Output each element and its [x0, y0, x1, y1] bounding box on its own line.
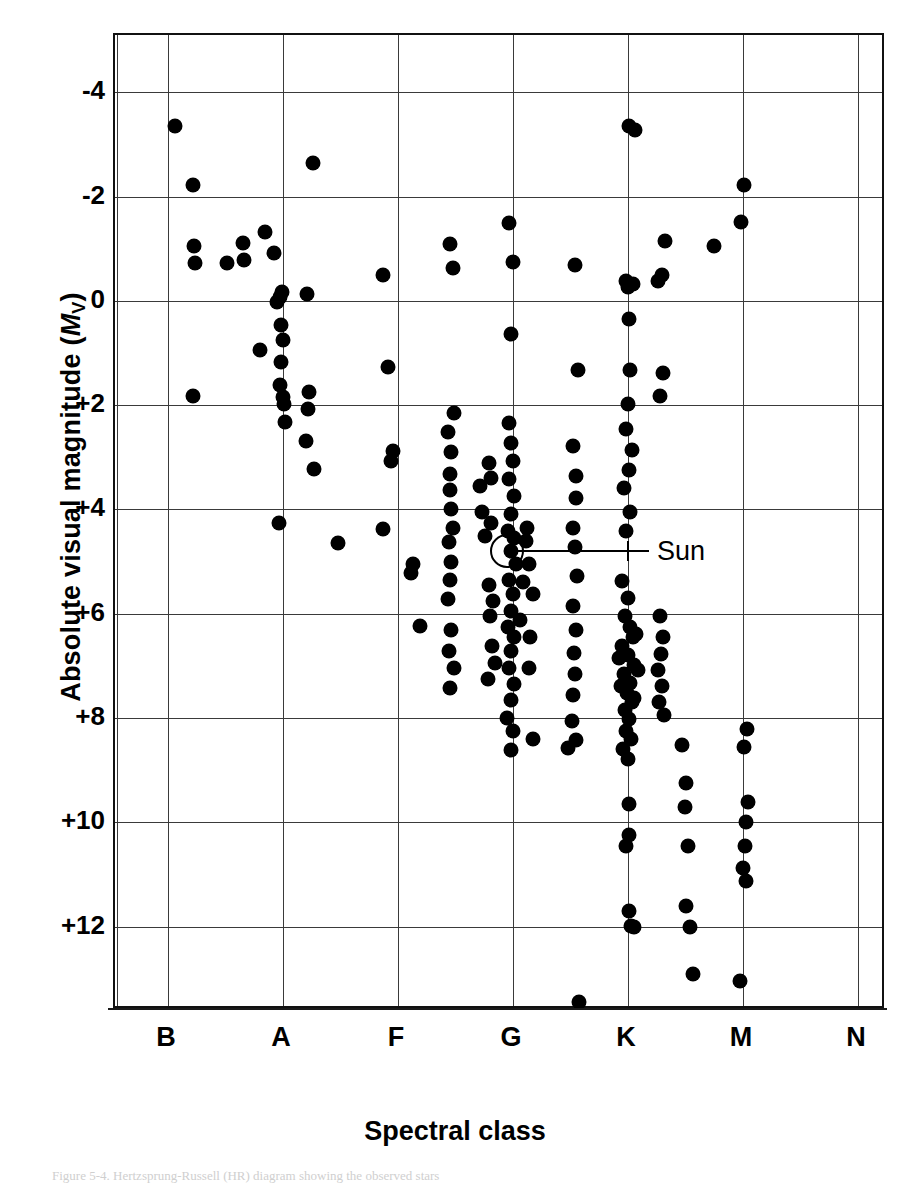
data-point [621, 751, 636, 766]
y-axis-tick-label: +6 [35, 596, 105, 627]
data-point [740, 722, 755, 737]
x-axis-tick-label-k: K [616, 1022, 636, 1053]
data-point [681, 838, 696, 853]
hr-diagram-figure: Absolute visual magnitude (MV) -4-20+2+4… [0, 0, 910, 1186]
data-point [566, 438, 581, 453]
data-point [569, 623, 584, 638]
data-point [504, 644, 519, 659]
data-point [653, 609, 668, 624]
data-point [569, 468, 584, 483]
gridline-horizontal [115, 718, 882, 719]
gridline-vertical [117, 35, 118, 1006]
data-point [741, 795, 756, 810]
data-point [619, 524, 634, 539]
gridline-horizontal [115, 197, 882, 198]
data-point [506, 724, 521, 739]
data-point [617, 480, 632, 495]
data-point [306, 155, 321, 170]
data-point [478, 528, 493, 543]
data-point [623, 505, 638, 520]
x-axis-tick-label-g: G [500, 1022, 521, 1053]
data-point [507, 677, 522, 692]
data-point [612, 651, 627, 666]
gridline-horizontal [115, 509, 882, 510]
data-point [504, 743, 519, 758]
gridline-horizontal [115, 822, 882, 823]
gridline-horizontal [115, 405, 882, 406]
data-point [488, 656, 503, 671]
data-point [299, 433, 314, 448]
data-point [236, 235, 251, 250]
data-point [272, 515, 287, 530]
data-point [622, 797, 637, 812]
y-axis-tick-label: +12 [35, 909, 105, 940]
data-point [629, 626, 644, 641]
x-axis-tick-label-b: B [156, 1022, 176, 1053]
data-point [376, 267, 391, 282]
data-point [502, 416, 517, 431]
data-point [522, 557, 537, 572]
data-point [168, 119, 183, 134]
data-point [413, 618, 428, 633]
data-point [734, 214, 749, 229]
data-point [444, 445, 459, 460]
data-point [655, 678, 670, 693]
data-point [237, 253, 252, 268]
data-point [628, 122, 643, 137]
data-point [683, 919, 698, 934]
x-axis-tick-label-f: F [388, 1022, 405, 1053]
data-point [443, 572, 458, 587]
data-point [446, 261, 461, 276]
data-point [443, 482, 458, 497]
data-point [623, 362, 638, 377]
data-point [622, 463, 637, 478]
data-point [186, 178, 201, 193]
data-point [502, 215, 517, 230]
data-point [507, 489, 522, 504]
data-point [565, 713, 580, 728]
y-axis-tick-label: +10 [35, 805, 105, 836]
data-point [526, 731, 541, 746]
y-axis-tick-label: 0 [35, 283, 105, 314]
data-point [737, 178, 752, 193]
data-point [678, 799, 693, 814]
data-point [707, 239, 722, 254]
data-point [737, 739, 752, 754]
data-point [686, 966, 701, 981]
data-point [447, 406, 462, 421]
data-point [504, 435, 519, 450]
data-point [444, 623, 459, 638]
data-point [568, 258, 583, 273]
gridline-vertical [628, 35, 629, 1006]
data-point [267, 245, 282, 260]
gridline-horizontal [115, 927, 882, 928]
data-point [619, 421, 634, 436]
data-point [739, 873, 754, 888]
plot-area: Sun [113, 33, 884, 1008]
data-point [484, 471, 499, 486]
data-point [567, 645, 582, 660]
data-point [441, 592, 456, 607]
data-point [568, 666, 583, 681]
sun-leader-tick [627, 541, 629, 561]
data-point [566, 520, 581, 535]
data-point [655, 267, 670, 282]
data-point [679, 776, 694, 791]
data-point [485, 639, 500, 654]
data-point [566, 687, 581, 702]
data-point [615, 574, 630, 589]
y-axis-tick-label: +8 [35, 701, 105, 732]
data-point [186, 388, 201, 403]
y-axis-tick-label: -4 [35, 75, 105, 106]
data-point [526, 586, 541, 601]
data-point [443, 236, 458, 251]
data-point [653, 388, 668, 403]
data-point [442, 534, 457, 549]
data-point [506, 254, 521, 269]
data-point [568, 540, 583, 555]
data-point [658, 233, 673, 248]
data-point [522, 661, 537, 676]
data-point [622, 903, 637, 918]
gridline-vertical [398, 35, 399, 1006]
data-point [187, 239, 202, 254]
